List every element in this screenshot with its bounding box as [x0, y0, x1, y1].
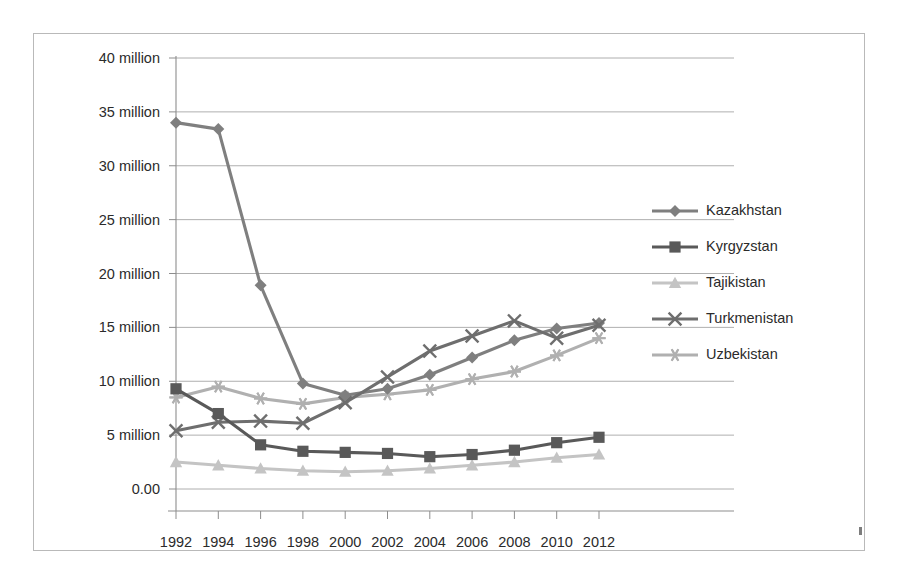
square-marker [297, 446, 308, 457]
data-series-group [169, 117, 605, 477]
legend-label: Tajikistan [706, 274, 766, 290]
diamond-marker [466, 352, 478, 364]
series-turkmenistan [170, 315, 606, 438]
square-marker [213, 408, 224, 419]
y-axis-tick-label: 35 million [99, 104, 160, 120]
x-axis-tick-label: 2006 [456, 534, 488, 550]
x-axis-tick-label: 2010 [541, 534, 573, 550]
x-axis-tick-label: 2000 [329, 534, 361, 550]
diamond-marker [255, 279, 267, 291]
chart-frame: 40 million35 million30 million25 million… [33, 33, 865, 551]
square-marker [509, 445, 520, 456]
asterisk-marker [466, 373, 479, 384]
chart-legend: KazakhstanKyrgyzstanTajikistanTurkmenist… [652, 202, 793, 362]
square-marker [255, 439, 266, 450]
asterisk-marker [212, 381, 225, 392]
x-axis-tick-label: 1996 [244, 534, 276, 550]
legend-label: Turkmenistan [706, 310, 793, 326]
square-marker [424, 451, 435, 462]
x-axis-tick-label: 2002 [371, 534, 403, 550]
y-axis-tick-label: 5 million [107, 427, 160, 443]
diamond-marker [508, 334, 520, 346]
x-axis-tick-label: 1998 [287, 534, 319, 550]
legend-label: Uzbekistan [706, 346, 778, 362]
asterisk-marker [296, 398, 309, 409]
diamond-marker [170, 117, 182, 129]
x-axis-tick-label: 2012 [583, 534, 615, 550]
square-marker [170, 383, 181, 394]
square-marker [340, 447, 351, 458]
asterisk-marker [550, 350, 563, 361]
legend-item-tajikistan[interactable]: Tajikistan [652, 274, 766, 290]
axes [168, 56, 734, 519]
legend-item-kyrgyzstan[interactable]: Kyrgyzstan [652, 238, 778, 254]
line-chart: 40 million35 million30 million25 million… [34, 34, 864, 550]
y-axis-tick-labels: 40 million35 million30 million25 million… [99, 50, 160, 497]
legend-item-uzbekistan[interactable]: Uzbekistan [652, 346, 778, 362]
x-axis-tick-label: 1994 [202, 534, 234, 550]
y-axis-tick-label: 15 million [99, 319, 160, 335]
x-axis-tick-label: 2004 [414, 534, 446, 550]
diamond-marker [424, 369, 436, 381]
asterisk-marker [508, 366, 521, 377]
y-axis-tick-label: 40 million [99, 50, 160, 66]
y-axis-tick-label: 30 million [99, 158, 160, 174]
x-axis-tick-label: 1992 [160, 534, 192, 550]
legend-label: Kyrgyzstan [706, 238, 778, 254]
x-axis-tick-labels: 1992199419961998200020022004200620082010… [160, 534, 615, 550]
y-axis-tick-label: 20 million [99, 266, 160, 282]
square-marker [467, 449, 478, 460]
diamond-marker [297, 377, 309, 389]
diamond-marker [669, 205, 681, 217]
square-marker [593, 432, 604, 443]
y-axis-tick-label: 0.00 [132, 481, 160, 497]
series-uzbekistan [169, 332, 605, 409]
legend-item-turkmenistan[interactable]: Turkmenistan [652, 310, 793, 326]
asterisk-marker [668, 349, 681, 360]
asterisk-marker [254, 393, 267, 404]
x-axis-tick-label: 2008 [498, 534, 530, 550]
asterisk-marker [592, 332, 605, 343]
series-kazakhstan [170, 117, 605, 402]
corner-mark [859, 527, 862, 535]
square-marker [669, 241, 680, 252]
asterisk-marker [423, 384, 436, 395]
diamond-marker [212, 123, 224, 135]
square-marker [382, 448, 393, 459]
gridlines [176, 58, 734, 489]
y-axis-tick-label: 10 million [99, 373, 160, 389]
y-axis-tick-label: 25 million [99, 212, 160, 228]
square-marker [551, 437, 562, 448]
legend-label: Kazakhstan [706, 202, 782, 218]
legend-item-kazakhstan[interactable]: Kazakhstan [652, 202, 782, 218]
series-line [176, 123, 599, 396]
